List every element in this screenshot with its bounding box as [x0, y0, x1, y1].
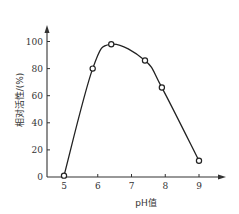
- x-tick-label: 5: [61, 181, 67, 191]
- y-tick-label: 20: [32, 145, 44, 155]
- x-tick-label: 8: [162, 181, 168, 191]
- y-ticks: 020406080100: [26, 37, 50, 183]
- data-point-marker: [159, 85, 164, 90]
- data-point-marker: [142, 58, 147, 63]
- data-point-marker: [109, 42, 114, 47]
- y-axis-title: 相对活性/(%): [14, 73, 25, 128]
- axes: [45, 25, 227, 180]
- y-tick-label: 80: [32, 64, 44, 74]
- x-axis-title: pH值: [135, 197, 156, 208]
- x-tick-label: 6: [95, 181, 101, 191]
- x-axis-arrow-icon: [218, 175, 226, 180]
- y-tick-label: 40: [32, 118, 44, 128]
- y-tick-label: 0: [37, 172, 43, 182]
- data-point-marker: [196, 158, 201, 163]
- data-point-marker: [61, 173, 66, 178]
- y-tick-label: 60: [32, 91, 44, 101]
- y-axis-arrow-icon: [45, 25, 50, 33]
- data-markers: [61, 42, 201, 179]
- chart-canvas: 56789 020406080100 pH值 相对活性/(%): [0, 0, 239, 214]
- x-tick-label: 9: [196, 181, 202, 191]
- activity-curve: [64, 44, 199, 176]
- y-tick-label: 100: [26, 37, 43, 47]
- data-point-marker: [90, 66, 95, 71]
- x-tick-label: 7: [129, 181, 135, 191]
